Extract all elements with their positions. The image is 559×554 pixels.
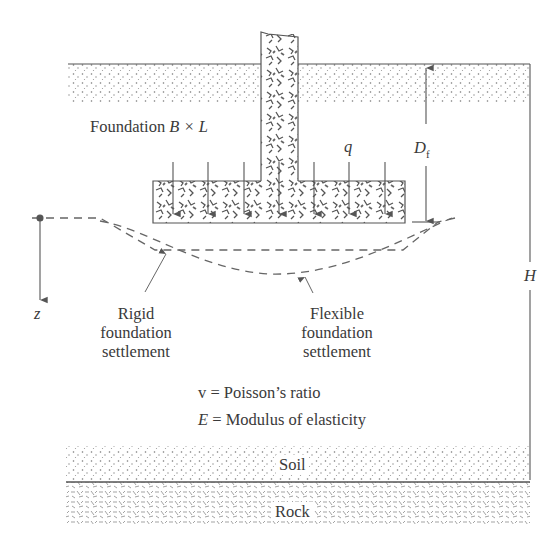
soil-label: Soil <box>276 455 309 474</box>
z-axis-label: z <box>34 304 40 323</box>
foundation-label: Foundation B × L <box>90 117 208 136</box>
foundation-dims: B × L <box>169 117 208 136</box>
flexible-settlement-label: Flexible foundation settlement <box>282 304 392 361</box>
thickness-h-label: H <box>524 266 536 285</box>
load-q-label: q <box>344 137 352 156</box>
flexible-settlement-line <box>100 218 452 274</box>
modulus-label: E = Modulus of elasticity <box>198 410 366 429</box>
rigid-settlement-label: Rigid foundation settlement <box>86 304 186 361</box>
surface-soil-layer <box>68 64 530 102</box>
foundation-column <box>261 32 298 182</box>
z-axis <box>37 215 43 300</box>
poisson-ratio-label: v = Poisson’s ratio <box>198 383 321 402</box>
rock-label: Rock <box>272 502 313 521</box>
settlement-profiles <box>32 218 455 274</box>
depth-df-label: Df <box>414 138 430 159</box>
